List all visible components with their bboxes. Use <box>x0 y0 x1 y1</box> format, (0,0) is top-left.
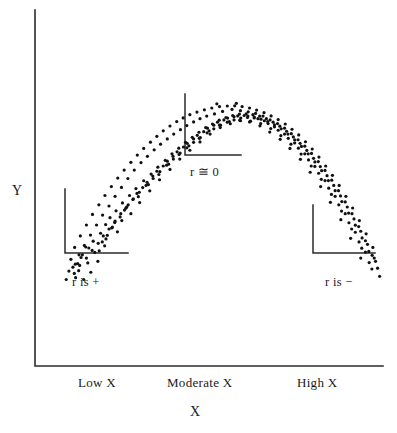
data-point <box>305 149 308 152</box>
data-point <box>178 158 181 161</box>
data-point <box>168 168 171 171</box>
data-point <box>170 152 173 155</box>
data-point <box>313 165 316 168</box>
data-point <box>261 115 264 118</box>
data-point <box>81 253 84 256</box>
data-point <box>338 184 341 187</box>
data-point <box>107 204 110 207</box>
data-point <box>238 112 241 115</box>
data-point <box>67 269 70 272</box>
data-point <box>209 132 212 135</box>
data-point <box>351 206 354 209</box>
data-point <box>231 114 234 117</box>
data-point <box>327 179 330 182</box>
data-point <box>198 117 201 120</box>
data-point <box>155 135 158 138</box>
data-point <box>313 160 316 163</box>
data-point <box>373 257 376 260</box>
data-point <box>146 155 149 158</box>
data-point <box>165 164 168 167</box>
data-point <box>113 220 116 223</box>
data-point <box>307 158 310 161</box>
data-point <box>120 219 123 222</box>
data-point <box>330 193 333 196</box>
data-point <box>149 141 152 144</box>
data-point <box>74 263 77 266</box>
data-point <box>175 120 178 123</box>
data-point <box>265 117 268 120</box>
data-point <box>79 234 82 237</box>
data-point <box>97 242 100 245</box>
data-point <box>320 169 323 172</box>
data-point <box>329 201 332 204</box>
data-point <box>241 105 244 108</box>
data-point <box>319 165 322 168</box>
data-point <box>221 110 224 113</box>
data-point <box>332 184 335 187</box>
data-point <box>116 177 119 180</box>
plot-canvas <box>0 0 397 433</box>
data-point <box>95 223 98 226</box>
data-point <box>292 135 295 138</box>
data-point <box>179 151 182 154</box>
data-point <box>205 115 208 118</box>
data-point <box>364 250 367 253</box>
data-point <box>276 122 279 125</box>
data-point <box>323 179 326 182</box>
data-point <box>367 250 370 253</box>
data-point <box>258 124 261 127</box>
data-point <box>232 118 235 121</box>
data-point <box>307 152 310 155</box>
data-point <box>368 261 371 264</box>
data-point <box>226 104 229 107</box>
data-point <box>269 114 272 117</box>
data-point <box>111 226 114 229</box>
data-point <box>300 145 303 148</box>
data-point <box>213 112 216 115</box>
data-point <box>113 195 116 198</box>
data-point <box>92 240 95 243</box>
data-point <box>337 189 340 192</box>
inset-axes-right <box>313 205 375 253</box>
data-point <box>374 260 377 263</box>
data-point <box>303 145 306 148</box>
data-point <box>126 177 129 180</box>
data-point <box>360 247 363 250</box>
x-tick-label-moderate: Moderate X <box>167 375 232 391</box>
data-point <box>192 120 195 123</box>
data-point <box>142 179 145 182</box>
data-point <box>226 121 229 124</box>
data-point <box>327 187 330 190</box>
data-point <box>310 152 313 155</box>
data-point <box>211 122 214 125</box>
data-point <box>370 267 373 270</box>
data-point <box>357 240 360 243</box>
data-point <box>133 168 136 171</box>
data-point <box>93 251 96 254</box>
data-point <box>102 234 105 237</box>
data-point <box>317 160 320 163</box>
x-tick-label-high: High X <box>297 375 337 391</box>
annotation-r-zero: r ≅ 0 <box>190 164 219 180</box>
data-point <box>298 142 301 145</box>
data-point <box>101 240 104 243</box>
data-point <box>258 115 261 118</box>
data-point <box>277 129 280 132</box>
data-point <box>350 227 353 230</box>
data-point <box>162 164 165 167</box>
data-point <box>97 203 100 206</box>
main-axes <box>35 10 383 366</box>
data-point <box>179 128 182 131</box>
y-axis-label: Y <box>12 183 22 199</box>
data-point <box>153 148 156 151</box>
data-point <box>248 120 251 123</box>
data-point <box>137 195 140 198</box>
data-point <box>289 143 292 146</box>
data-point <box>365 232 368 235</box>
data-point <box>142 147 145 150</box>
data-point <box>106 234 109 237</box>
data-point <box>230 108 233 111</box>
data-point <box>273 123 276 126</box>
data-point <box>297 133 300 136</box>
data-point <box>162 129 165 132</box>
